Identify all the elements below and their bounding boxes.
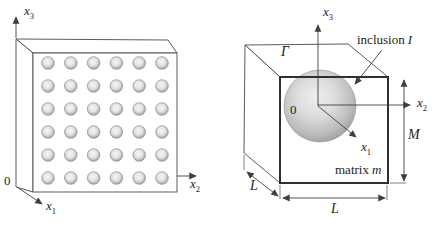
fiber-inclusion — [87, 80, 100, 93]
boundary-gamma-label: Γ — [281, 45, 289, 59]
fiber-inclusion — [87, 103, 100, 116]
block-top-face — [16, 39, 177, 53]
fiber-inclusion — [110, 149, 123, 162]
fiber-inclusion — [110, 126, 123, 139]
right-origin-label: 0 — [290, 103, 297, 116]
figure-canvas: x3 0 x1 x2 x3 Γ inclusionI 0 x2 x1 M mat… — [0, 0, 438, 225]
block-left-face — [16, 39, 33, 192]
fiber-inclusion — [65, 172, 78, 185]
fiber-inclusion — [42, 80, 55, 93]
fiber-inclusion — [156, 149, 169, 162]
fiber-inclusion — [65, 103, 78, 116]
fiber-inclusion — [110, 103, 123, 116]
fiber-inclusion — [133, 80, 146, 93]
unit-cell-figure — [244, 25, 410, 200]
dim-height-label: M — [408, 128, 420, 142]
block-front-face — [33, 53, 177, 192]
dim-width-label: L — [331, 202, 339, 216]
fiber-inclusion — [133, 172, 146, 185]
inclusion-label: inclusionI — [357, 33, 412, 46]
matrix-label: matrixm — [335, 163, 381, 176]
right-axis-x1-label: x1 — [361, 140, 371, 153]
fiber-inclusion — [133, 57, 146, 70]
fiber-inclusion — [156, 57, 169, 70]
fiber-inclusion — [65, 80, 78, 93]
fiber-inclusion — [133, 103, 146, 116]
fiber-inclusion — [110, 57, 123, 70]
fiber-inclusion — [42, 149, 55, 162]
fiber-inclusion — [42, 172, 55, 185]
fiber-inclusion — [87, 149, 100, 162]
fiber-inclusion — [156, 172, 169, 185]
fiber-inclusion — [42, 103, 55, 116]
fiber-inclusion — [65, 149, 78, 162]
fiber-inclusion — [110, 172, 123, 185]
dim-depth-label: L — [250, 179, 258, 193]
fiber-inclusion — [110, 80, 123, 93]
right-axis-x3-label: x3 — [323, 5, 333, 18]
fiber-inclusion — [87, 172, 100, 185]
left-axis-x2-label: x2 — [190, 177, 200, 190]
fiber-inclusion — [42, 126, 55, 139]
left-origin-label: 0 — [4, 174, 11, 187]
fiber-inclusion — [156, 126, 169, 139]
fiber-inclusion — [133, 126, 146, 139]
fiber-inclusion — [156, 103, 169, 116]
fiber-inclusion — [133, 149, 146, 162]
fiber-inclusion — [87, 57, 100, 70]
fiber-inclusion — [65, 57, 78, 70]
composite-block-figure — [16, 17, 196, 204]
fiber-inclusion — [65, 126, 78, 139]
left-axis-x1-label: x1 — [46, 199, 56, 212]
fiber-inclusion — [156, 80, 169, 93]
fiber-inclusion — [42, 57, 55, 70]
fiber-inclusion — [87, 126, 100, 139]
left-axis-x3-label: x3 — [24, 4, 34, 17]
right-axis-x2-label: x2 — [417, 96, 427, 109]
